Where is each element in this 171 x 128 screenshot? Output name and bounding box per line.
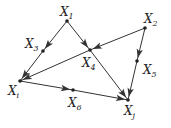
arrowhead-icon (135, 49, 143, 59)
node-label-x2: X2 (143, 12, 158, 28)
node-label-xj: Xj (123, 104, 136, 120)
node-x2 (143, 26, 147, 30)
arrowhead-icon (92, 43, 103, 52)
node-x3 (41, 49, 45, 53)
node-label-x1: X1 (59, 5, 74, 21)
node-xj (126, 98, 130, 102)
node-label-x6: X6 (67, 96, 82, 112)
nodes: X1X2X3X4X5XiX6Xj (7, 5, 158, 120)
graph-canvas: X1X2X3X4X5XiX6Xj (0, 0, 171, 128)
arrowhead-icon (61, 85, 71, 93)
node-label-x3: X3 (24, 37, 39, 53)
arrowhead-icon (80, 39, 91, 50)
node-label-x4: X4 (81, 56, 96, 72)
node-x6 (71, 88, 75, 92)
node-x5 (135, 59, 139, 63)
edge-x4-xi (20, 50, 90, 81)
node-x4 (88, 48, 92, 52)
node-xi (18, 79, 22, 83)
arrowhead-icon (126, 88, 134, 98)
node-label-x5: X5 (142, 63, 157, 79)
node-label-xi: Xi (7, 84, 20, 100)
